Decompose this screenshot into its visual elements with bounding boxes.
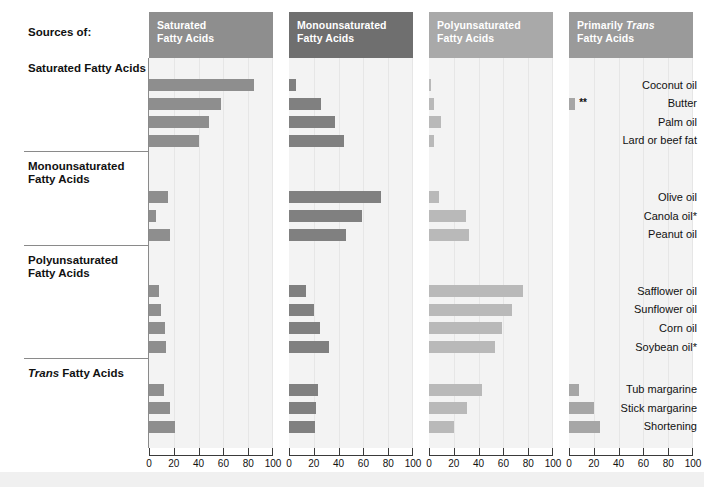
- bar: [149, 285, 159, 297]
- group-separator: [24, 245, 149, 246]
- axis-tick-label: 100: [265, 458, 282, 469]
- axis-tick: [223, 448, 224, 456]
- column-header-line1: Monounsaturated: [297, 19, 413, 32]
- grid-line: [528, 58, 529, 448]
- axis-tick-label: 80: [523, 458, 534, 469]
- row-label: Sunflower oil: [634, 303, 697, 315]
- axis-line: [429, 455, 553, 456]
- footnote-marker: **: [579, 98, 587, 108]
- bar: [429, 322, 502, 334]
- bar: [289, 116, 335, 128]
- axis-tick: [174, 448, 175, 456]
- bar: [289, 285, 306, 297]
- axis-tick-label: 80: [663, 458, 674, 469]
- row-label: Safflower oil: [637, 285, 697, 297]
- grid-line: [503, 58, 504, 448]
- bar: [289, 210, 362, 222]
- bar: [429, 304, 512, 316]
- row-label: Palm oil: [658, 116, 697, 128]
- bar: [289, 191, 381, 203]
- grid-line: [619, 58, 620, 448]
- column-header-line2: Fatty Acids: [577, 32, 693, 45]
- axis-line: [569, 455, 693, 456]
- grid-line: [272, 58, 273, 448]
- x-axis: [569, 448, 693, 456]
- bar: [149, 79, 254, 91]
- axis-tick: [594, 448, 595, 456]
- axis-tick: [569, 448, 570, 456]
- axis-tick: [149, 448, 150, 456]
- bar: [429, 135, 434, 147]
- group-title: MonounsaturatedFatty Acids: [28, 160, 124, 186]
- bar: [289, 341, 329, 353]
- bar: [569, 402, 594, 414]
- axis-tick: [454, 448, 455, 456]
- row-label: Stick margarine: [621, 402, 697, 414]
- grid-line: [388, 58, 389, 448]
- axis-tick-label: 0: [566, 458, 572, 469]
- axis-tick: [503, 448, 504, 456]
- bar: [149, 322, 165, 334]
- row-label: Shortening: [644, 420, 697, 432]
- x-axis: [149, 448, 273, 456]
- column-header-monounsaturated: Monounsaturated Fatty Acids: [289, 12, 413, 58]
- axis-tick: [248, 448, 249, 456]
- bar: [289, 402, 316, 414]
- axis-tick-label: 40: [613, 458, 624, 469]
- bar: [149, 116, 209, 128]
- axis-tick: [412, 448, 413, 456]
- column-header-line1: Primarily Trans: [577, 19, 693, 32]
- grid-line: [594, 58, 595, 448]
- bar: [569, 384, 579, 396]
- axis-tick: [528, 448, 529, 456]
- axis-tick: [272, 448, 273, 456]
- footer-band: [0, 472, 704, 487]
- bar: [149, 304, 161, 316]
- x-axis-tick-labels: 020406080100: [429, 458, 553, 471]
- bar: [289, 98, 321, 110]
- axis-tick-label: 80: [243, 458, 254, 469]
- grid-line: [248, 58, 249, 448]
- column-header-line1: Saturated: [157, 19, 273, 32]
- axis-tick-label: 100: [685, 458, 702, 469]
- x-axis: [429, 448, 553, 456]
- group-title: Saturated Fatty Acids: [28, 62, 146, 75]
- group-title: PolyunsaturatedFatty Acids: [28, 254, 118, 280]
- column-header-line1: Polyunsaturated: [437, 19, 553, 32]
- row-label: Soybean oil*: [635, 341, 697, 353]
- axis-tick-label: 20: [168, 458, 179, 469]
- bar: [149, 98, 221, 110]
- x-axis-tick-labels: 020406080100: [149, 458, 273, 471]
- bar: [429, 229, 469, 241]
- bar: [289, 79, 296, 91]
- column-header-line2: Fatty Acids: [157, 32, 273, 45]
- bar: [569, 98, 575, 110]
- bar: [429, 98, 434, 110]
- row-label: Coconut oil: [642, 79, 697, 91]
- bar: [149, 421, 175, 433]
- axis-tick: [339, 448, 340, 456]
- axis-tick: [552, 448, 553, 456]
- bar: [429, 384, 482, 396]
- axis-tick-label: 40: [473, 458, 484, 469]
- sources-of-label: Sources of:: [28, 26, 91, 38]
- bar: [149, 191, 168, 203]
- bar: [149, 210, 156, 222]
- row-label: Tub margarine: [626, 383, 697, 395]
- bar: [289, 384, 318, 396]
- bar: [429, 191, 439, 203]
- axis-tick-label: 40: [193, 458, 204, 469]
- bar: [289, 135, 344, 147]
- grid-line: [223, 58, 224, 448]
- group-separator: [24, 358, 149, 359]
- group-separator: [24, 151, 149, 152]
- row-label: Peanut oil: [648, 228, 697, 240]
- axis-tick-label: 60: [498, 458, 509, 469]
- axis-line: [289, 455, 413, 456]
- grid-line: [339, 58, 340, 448]
- bar: [289, 229, 346, 241]
- bar: [149, 402, 170, 414]
- bar: [149, 384, 164, 396]
- axis-tick-label: 0: [146, 458, 152, 469]
- x-axis-tick-labels: 020406080100: [289, 458, 413, 471]
